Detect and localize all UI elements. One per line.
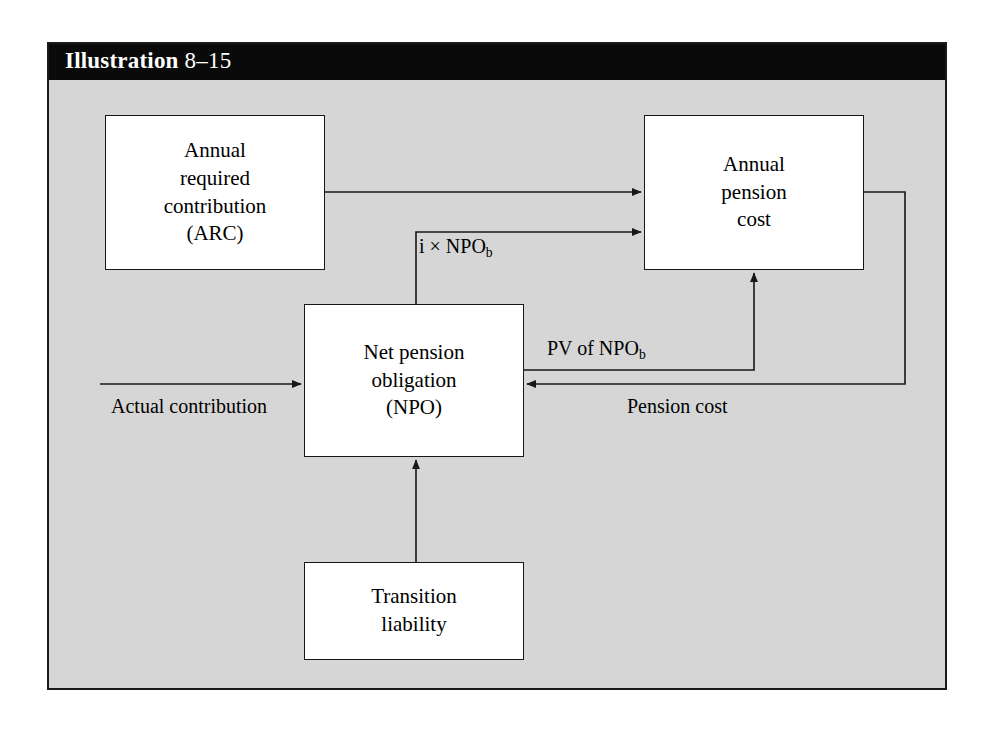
node-npo-line-3: (NPO) — [364, 394, 465, 422]
figure-title-label: Illustration — [65, 48, 179, 73]
figure-title: Illustration 8–15 — [65, 48, 231, 74]
node-npo-line-1: Net pension — [364, 339, 465, 367]
node-transition-line-1: Transition — [371, 583, 457, 611]
node-arc-line-4: (ARC) — [164, 220, 267, 248]
node-apc-line-3: cost — [721, 206, 786, 234]
node-apc-line-1: Annual — [721, 151, 786, 179]
edge-label-pv-of-npo: PV of NPOb — [547, 338, 646, 358]
edge-label-pension-cost: Pension cost — [627, 396, 728, 416]
node-transition-line-2: liability — [371, 611, 457, 639]
figure-header-bar: Illustration 8–15 — [49, 44, 945, 80]
node-arc-line-2: required — [164, 165, 267, 193]
edge-label-pv-text: PV of NPO — [547, 337, 639, 359]
edge-label-pv-subscript: b — [639, 347, 646, 362]
edge-label-actual-contribution: Actual contribution — [111, 396, 267, 416]
node-npo-line-2: obligation — [364, 367, 465, 395]
node-annual-pension-cost[interactable]: Annual pension cost — [644, 115, 864, 270]
edge-label-interest-text: i × NPO — [419, 235, 486, 257]
edge-label-interest-times-npo: i × NPOb — [419, 236, 493, 256]
figure-title-number: 8–15 — [185, 48, 232, 73]
node-arc-line-3: contribution — [164, 193, 267, 221]
node-arc-line-1: Annual — [164, 137, 267, 165]
node-annual-required-contribution[interactable]: Annual required contribution (ARC) — [105, 115, 325, 270]
node-apc-line-2: pension — [721, 179, 786, 207]
node-transition-liability[interactable]: Transition liability — [304, 562, 524, 660]
edge-label-interest-subscript: b — [486, 245, 493, 260]
diagram-canvas: Annual required contribution (ARC) Annua… — [49, 80, 945, 688]
node-net-pension-obligation[interactable]: Net pension obligation (NPO) — [304, 304, 524, 457]
illustration-figure: Illustration 8–15 — [47, 42, 947, 690]
